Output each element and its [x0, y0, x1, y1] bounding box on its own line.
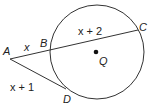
segment-label-ad: x + 1 [10, 81, 34, 93]
diagram: A B C D Q x x + 2 x + 1 [0, 0, 151, 104]
point-label-c: C [139, 21, 147, 33]
point-label-d: D [63, 93, 71, 104]
point-label-q: Q [99, 55, 108, 67]
geometry-figure: A B C D Q x x + 2 x + 1 [0, 0, 151, 104]
point-label-a: A [2, 45, 10, 57]
center-dot [94, 50, 99, 55]
point-label-b: B [40, 37, 47, 49]
segment-label-ab: x [23, 41, 30, 53]
segment-label-bc: x + 2 [78, 25, 102, 37]
